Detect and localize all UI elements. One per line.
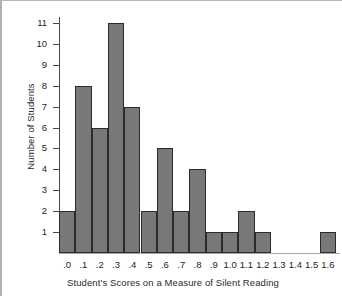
y-tick-label: 3 — [7, 184, 47, 195]
histogram-bar — [92, 128, 108, 253]
y-tick-label: 7 — [7, 101, 47, 112]
histogram-bar — [124, 107, 140, 253]
plot-area — [59, 15, 336, 253]
y-tick-label: 4 — [7, 163, 47, 174]
histogram-bar — [141, 211, 157, 253]
x-tick-label: 1.6 — [316, 259, 340, 270]
histogram-bar — [189, 169, 205, 253]
y-tick-label: 10 — [7, 38, 47, 49]
x-axis-title: Student's Scores on a Measure of Silent … — [2, 277, 342, 288]
histogram-bar — [255, 232, 271, 253]
y-tick-label: 5 — [7, 142, 47, 153]
histogram-bar — [206, 232, 222, 253]
y-tick-label: 11 — [7, 17, 47, 28]
histogram-figure: Number of Students 1234567891011 .0.1.2.… — [0, 0, 342, 296]
histogram-bar — [173, 211, 189, 253]
histogram-bar — [108, 23, 124, 253]
x-axis-baseline — [59, 253, 340, 254]
histogram-bar — [157, 148, 173, 253]
histogram-bar — [59, 211, 75, 253]
histogram-bar — [222, 232, 238, 253]
histogram-bar — [75, 86, 91, 253]
y-tick-label: 6 — [7, 122, 47, 133]
y-tick-label: 2 — [7, 205, 47, 216]
y-tick-label: 9 — [7, 59, 47, 70]
y-tick-label: 1 — [7, 226, 47, 237]
y-tick-label: 8 — [7, 80, 47, 91]
histogram-bar — [320, 232, 336, 253]
histogram-bar — [238, 211, 254, 253]
